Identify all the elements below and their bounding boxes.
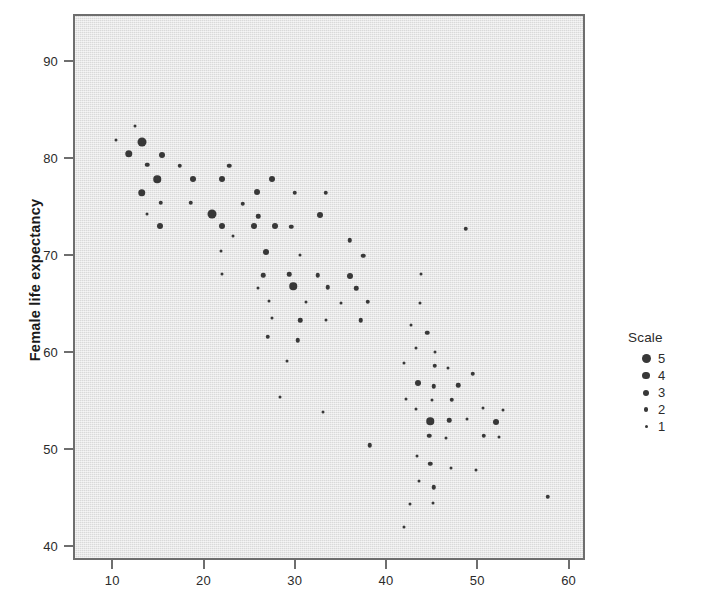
legend-item: 2 (628, 401, 698, 418)
data-point (322, 411, 325, 414)
data-point (456, 383, 461, 388)
data-point (326, 285, 331, 290)
x-axis-tick-mark (568, 560, 570, 569)
data-point (146, 213, 149, 216)
data-point (427, 433, 432, 438)
x-axis-tick-label: 60 (549, 573, 589, 588)
data-point (416, 455, 419, 458)
data-point (227, 163, 232, 168)
x-axis-tick-label: 30 (275, 573, 315, 588)
data-point (498, 435, 501, 438)
data-point (268, 299, 271, 302)
legend: Scale 54321 (628, 330, 698, 435)
data-point (265, 334, 270, 339)
data-point (546, 495, 551, 500)
data-point (178, 163, 183, 168)
data-point (298, 318, 303, 323)
y-axis-tick-mark (64, 60, 73, 62)
data-point (256, 214, 261, 219)
legend-item: 5 (628, 350, 698, 367)
x-axis-tick-mark (203, 560, 205, 569)
data-point (418, 480, 421, 483)
data-point (285, 359, 288, 362)
data-point (317, 212, 323, 218)
data-point (450, 466, 453, 469)
legend-item-label: 2 (658, 402, 665, 417)
data-point (115, 139, 118, 142)
y-axis-tick-label: 80 (24, 150, 58, 165)
data-point (316, 273, 321, 278)
y-axis-tick-label: 40 (24, 539, 58, 554)
data-point (289, 282, 297, 290)
data-point (304, 300, 307, 303)
data-point (207, 210, 216, 219)
data-point (366, 299, 371, 304)
data-point (450, 398, 455, 403)
data-point (220, 273, 223, 276)
y-axis-tick-label: 60 (24, 345, 58, 360)
data-point (431, 485, 436, 490)
data-point (134, 124, 137, 127)
data-point (368, 443, 373, 448)
data-point (463, 227, 468, 232)
data-point (137, 138, 146, 147)
y-axis-tick-mark (64, 545, 73, 547)
data-point (408, 502, 411, 505)
legend-swatch-cell (638, 354, 654, 363)
data-point (418, 301, 421, 304)
data-point (432, 364, 437, 369)
x-axis-tick-label: 50 (457, 573, 497, 588)
legend-item-label: 3 (658, 385, 665, 400)
data-point (159, 200, 164, 205)
legend-dot-icon (642, 372, 650, 380)
data-point (347, 238, 352, 243)
x-axis-tick-label: 10 (92, 573, 132, 588)
data-point (409, 323, 412, 326)
legend-dot-icon (643, 390, 649, 396)
data-point (347, 273, 353, 279)
data-point (220, 250, 223, 253)
x-axis-tick-label: 20 (184, 573, 224, 588)
data-point (272, 223, 278, 229)
data-point (271, 317, 274, 320)
x-axis-tick-mark (294, 560, 296, 569)
data-point (430, 398, 433, 401)
data-point (415, 347, 418, 350)
y-axis-tick-label: 90 (24, 53, 58, 68)
data-point (405, 397, 408, 400)
data-point (145, 162, 150, 167)
data-point (419, 273, 422, 276)
data-point (434, 351, 437, 354)
data-point (447, 366, 450, 369)
data-point (159, 152, 165, 158)
data-point (138, 189, 146, 197)
legend-swatch-cell (638, 372, 654, 380)
data-point (415, 380, 421, 386)
data-point (415, 408, 418, 411)
data-point (324, 191, 329, 196)
scatter-chart: Female life expectancy 405060708090 1020… (0, 0, 707, 589)
legend-swatch-cell (638, 407, 654, 412)
data-point (153, 175, 161, 183)
data-point (471, 371, 476, 376)
data-point (324, 319, 327, 322)
x-axis-tick-mark (476, 560, 478, 569)
data-point (251, 223, 257, 229)
data-point (426, 417, 434, 425)
data-point (293, 191, 298, 196)
y-axis-tick-label: 70 (24, 247, 58, 262)
legend-swatch-cell (638, 390, 654, 396)
data-point (125, 150, 133, 158)
legend-item: 1 (628, 418, 698, 435)
y-axis-tick-mark (64, 157, 73, 159)
legend-dot-icon (642, 354, 651, 363)
data-point (289, 225, 294, 230)
data-point (354, 286, 359, 291)
legend-title: Scale (628, 330, 698, 345)
data-point (482, 433, 487, 438)
legend-swatch-cell (638, 425, 654, 428)
data-point (190, 176, 196, 182)
legend-item: 3 (628, 384, 698, 401)
y-axis-tick-mark (64, 351, 73, 353)
plot-area (73, 14, 585, 560)
